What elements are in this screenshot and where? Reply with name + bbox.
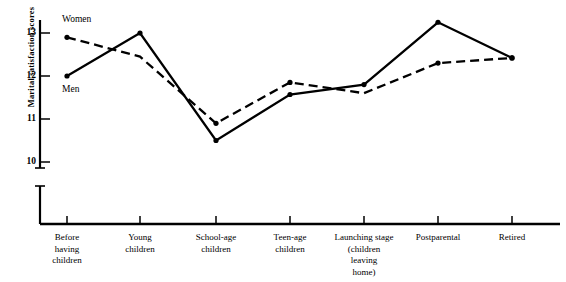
data-point-marker: [435, 20, 440, 25]
data-point-marker: [509, 55, 514, 60]
data-point-marker: [287, 92, 292, 97]
data-point-marker: [361, 82, 366, 87]
series-markers-women: [64, 35, 514, 126]
chart-figure: Marital satisfaction scores 13 12 11 10 …: [0, 0, 566, 282]
data-point-marker: [137, 30, 142, 35]
data-point-marker: [213, 121, 218, 126]
data-point-marker: [64, 35, 69, 40]
data-point-marker: [435, 61, 440, 66]
data-point-marker: [287, 80, 292, 85]
y-tick-marks: [40, 33, 50, 162]
data-point-marker: [64, 73, 69, 78]
data-point-marker: [213, 138, 218, 143]
plot-area: [0, 0, 566, 282]
